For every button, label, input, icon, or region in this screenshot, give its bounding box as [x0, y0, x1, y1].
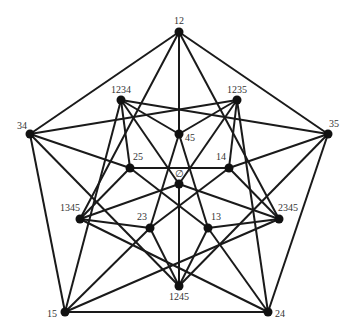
edge-35-1245 — [179, 134, 328, 286]
vertex-23 — [146, 224, 155, 233]
vertex-13 — [204, 224, 213, 233]
vertex-label-2345: 2345 — [278, 202, 298, 213]
vertex-2345 — [275, 215, 284, 224]
vertex-label-1245: 1245 — [169, 291, 189, 302]
edge-35-1234 — [121, 100, 328, 134]
vertex-35 — [324, 130, 333, 139]
vertex-label-23: 23 — [137, 211, 147, 222]
edge-15-34 — [30, 134, 65, 312]
edge-15-23 — [65, 228, 150, 312]
vertex-label-45: 45 — [185, 132, 195, 143]
vertex-1235 — [233, 96, 242, 105]
edge-34-1245 — [30, 134, 179, 286]
vertex-12 — [175, 28, 184, 37]
vertex-label-1345: 1345 — [60, 202, 80, 213]
vertex-14 — [225, 164, 234, 173]
edge-12-35 — [179, 32, 328, 134]
vertex-label-13: 13 — [211, 211, 221, 222]
vertex-25 — [126, 164, 135, 173]
vertex-label-34: 34 — [17, 120, 27, 131]
vertex-label-12: 12 — [174, 15, 184, 26]
vertex-15 — [61, 308, 70, 317]
clebsch-graph: 123435152412341235134523451245452514∅231… — [0, 0, 355, 336]
vertex-45 — [175, 130, 184, 139]
vertex-label-1234: 1234 — [111, 84, 131, 95]
vertex-label-35: 35 — [329, 118, 339, 129]
vertex-label-15: 15 — [47, 308, 57, 319]
vertex-empty — [175, 180, 184, 189]
edge-23-1245 — [150, 228, 179, 286]
vertex-24 — [264, 308, 273, 317]
vertex-label-24: 24 — [275, 308, 285, 319]
vertex-label-1235: 1235 — [227, 84, 247, 95]
vertex-label-14: 14 — [216, 151, 226, 162]
edge-13-24 — [208, 228, 268, 312]
edge-12-34 — [30, 32, 179, 134]
edge-34-1235 — [30, 100, 237, 134]
vertex-label-empty: ∅ — [175, 168, 184, 179]
vertex-1345 — [76, 215, 85, 224]
vertex-1245 — [175, 282, 184, 291]
vertex-label-25: 25 — [133, 151, 143, 162]
vertex-1234 — [117, 96, 126, 105]
